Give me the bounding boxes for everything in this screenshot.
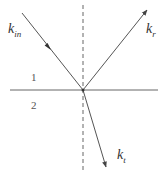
incidence-point [82,89,85,92]
transmitted-ray [83,90,106,167]
region-1-label: 1 [31,72,37,83]
reflected-ray [83,10,147,90]
incident-arrow-icon [45,43,51,50]
diagram-lines [0,0,166,178]
incident-ray-label: kin [8,22,21,39]
transmitted-ray-label: kt [117,148,126,165]
reflected-ray-label: kr [146,22,156,39]
reflection-refraction-diagram: kin kr kt 1 2 [0,0,166,178]
region-2-label: 2 [31,100,37,111]
